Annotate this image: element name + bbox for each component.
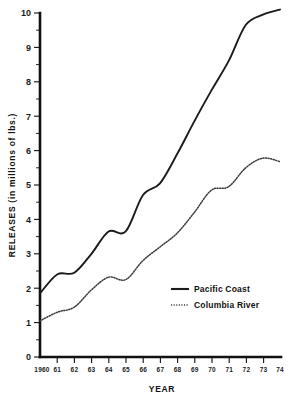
- chart-plot-area: RELEASES (in millions of lbs.): [0, 0, 292, 406]
- y-tick-label: 3: [26, 249, 31, 259]
- legend-item-columbia-river: Columbia River: [171, 300, 260, 310]
- y-axis-ticks: [34, 13, 40, 357]
- x-axis-tick-labels: 1960 61 62 63 64 65 66 67 68 69 70 71 72…: [34, 366, 284, 373]
- chart-legend: Pacific Coast Columbia River: [171, 284, 260, 310]
- y-axis-tick-labels: 10 9 8 7 6 5 4 3 2 1 0: [21, 8, 31, 362]
- x-tick-label: 68: [174, 366, 182, 373]
- x-tick-label: 67: [157, 366, 165, 373]
- y-tick-label: 10: [21, 8, 31, 18]
- line-chart: RELEASES (in millions of lbs.): [0, 0, 292, 406]
- x-tick-label: 74: [276, 366, 284, 373]
- legend-item-pacific-coast: Pacific Coast: [171, 284, 250, 294]
- x-tick-label: 1960: [34, 366, 49, 373]
- y-axis-title: RELEASES (in millions of lbs.): [7, 113, 17, 257]
- x-tick-label: 62: [71, 366, 79, 373]
- x-tick-label: 65: [122, 366, 130, 373]
- x-axis-title: YEAR: [149, 384, 175, 394]
- x-tick-label: 69: [191, 366, 199, 373]
- y-tick-label: 7: [26, 112, 31, 122]
- legend-label: Pacific Coast: [194, 284, 250, 294]
- legend-label: Columbia River: [194, 300, 260, 310]
- y-tick-label: 9: [26, 43, 31, 53]
- series-line-pacific-coast: [40, 10, 280, 294]
- y-tick-label: 6: [26, 146, 31, 156]
- y-tick-label: 0: [26, 352, 31, 362]
- x-tick-label: 73: [260, 366, 268, 373]
- x-tick-label: 63: [88, 366, 96, 373]
- y-tick-label: 2: [26, 284, 31, 294]
- x-tick-label: 72: [243, 366, 251, 373]
- y-tick-label: 1: [26, 318, 31, 328]
- x-tick-label: 66: [139, 366, 147, 373]
- x-tick-label: 61: [53, 366, 61, 373]
- y-tick-label: 5: [26, 180, 31, 190]
- y-tick-label: 4: [26, 215, 31, 225]
- x-tick-label: 70: [208, 366, 216, 373]
- x-tick-label: 64: [105, 366, 113, 373]
- x-tick-label: 71: [225, 366, 233, 373]
- y-tick-label: 8: [26, 77, 31, 87]
